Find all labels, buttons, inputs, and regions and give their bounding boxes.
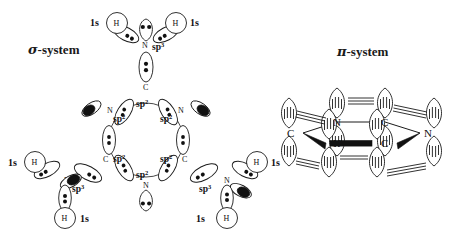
ring-N-lone-pair [140,190,153,211]
sigma-system-title: σ-system [28,42,80,57]
hydrogen-label: H [32,158,38,167]
ring-atom-N-topright: N [178,106,184,115]
ring-atom-N-bottom: N [143,181,149,190]
amine-N-bottom-right: N [224,176,230,185]
pi-atom-N-right: N [424,127,432,139]
orbital-label-1s: 1s [90,17,99,28]
pi-atom-C-front-center: C [381,137,388,149]
orbital-label-1s: 1s [80,213,89,224]
hydrogen-label: H [114,19,120,28]
amine-lone-pair-top [140,19,153,41]
hydrogen-label: H [173,19,179,28]
CN-bond-orbital [139,52,153,82]
ring-bond-orbital [177,126,190,155]
amine-N-top: N [142,41,148,50]
hydrogen-label: H [62,214,68,223]
ring-atom-C-bottomleft: C [103,155,108,164]
pi-system-title: π-system [336,44,389,59]
pi-atom-N-back-left: N [333,116,341,128]
pi-atom-N-front-left: N [333,137,341,149]
orbital-label-1s: 1s [196,213,205,224]
orbital-label-1s: 1s [271,157,280,168]
orbital-label-1s: 1s [8,157,17,168]
ring-atom-C-top: C [143,83,148,92]
hydrogen-label: H [254,158,260,167]
pi-atom-C-back-right: C [381,116,388,128]
ring-atom-C-bottomright: C [182,155,187,164]
figure-canvas: σ-system [0,0,468,240]
pi-atom-C-left: C [287,127,294,139]
orbital-diagram: σ-system [0,0,468,240]
hydrogen-label: H [224,214,230,223]
ring-bond-orbital [103,126,116,155]
orbital-label-1s: 1s [190,17,199,28]
